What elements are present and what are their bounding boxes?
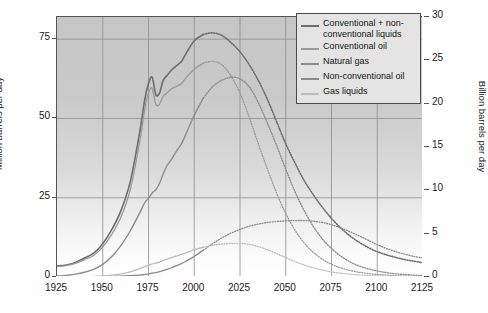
y-tick-left-50: 50 [22,110,50,121]
x-tick-2075: 2075 [311,282,351,293]
legend-line-swatch-icon [301,74,319,84]
y-tick-mark-right-5 [424,233,429,234]
x-tick-1950: 1950 [82,282,122,293]
y-tick-mark-right-30 [424,16,429,17]
legend-item-label: Conventional + non-conventional liquids [323,18,415,39]
legend-item-label: Gas liquids [323,86,368,97]
legend-item-4[interactable]: Non-conventional oil [301,71,415,84]
y-tick-left-0: 0 [22,269,50,280]
x-tick-1925: 1925 [36,282,76,293]
y-tick-mark-right-10 [424,189,429,190]
y-axis-left-title: Million barrels per day [0,77,4,170]
y-tick-mark-right-20 [424,103,429,104]
y-tick-mark-left-25 [52,197,56,198]
legend-line-swatch-icon [301,21,319,31]
y-tick-mark-left-75 [52,38,56,39]
y-tick-left-75: 75 [22,31,50,42]
y-tick-right-15: 15 [432,139,460,150]
y-tick-right-10: 10 [432,182,460,193]
legend-item-3[interactable]: Natural gas [301,56,415,69]
y-tick-left-25: 25 [22,190,50,201]
legend-item-label: Natural gas [323,56,369,67]
chart-legend: Conventional + non-conventional liquidsC… [296,13,421,104]
y-tick-mark-left-0 [52,276,56,277]
y-axis-right-title: Billion barrels per day [477,81,488,172]
x-tick-2025: 2025 [219,282,259,293]
legend-item-1[interactable]: Conventional + non-conventional liquids [301,18,415,39]
legend-item-label: Conventional oil [323,41,387,52]
y-tick-right-5: 5 [432,226,460,237]
legend-line-swatch-icon [301,59,319,69]
x-tick-2000: 2000 [173,282,213,293]
y-tick-right-30: 30 [432,9,460,20]
y-tick-mark-right-15 [424,146,429,147]
y-tick-right-0: 0 [432,269,460,280]
y-tick-mark-right-25 [424,59,429,60]
legend-item-2[interactable]: Conventional oil [301,41,415,54]
y-tick-mark-left-50 [52,117,56,118]
x-tick-2100: 2100 [356,282,396,293]
x-tick-1975: 1975 [128,282,168,293]
x-tick-2050: 2050 [265,282,305,293]
legend-line-swatch-icon [301,44,319,54]
y-tick-mark-right-0 [424,276,429,277]
legend-item-label: Non-conventional oil [323,71,405,82]
y-tick-right-25: 25 [432,52,460,63]
legend-rows: Conventional + non-conventional liquidsC… [301,18,415,99]
legend-line-swatch-icon [301,89,319,99]
y-tick-right-20: 20 [432,96,460,107]
x-tick-2125: 2125 [402,282,442,293]
legend-item-5[interactable]: Gas liquids [301,86,415,99]
